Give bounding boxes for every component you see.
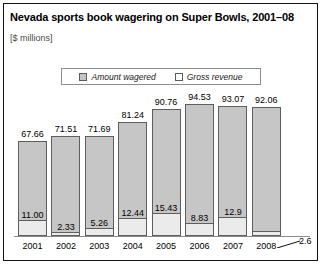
bar-gross-revenue: [86, 228, 113, 235]
callout-leader-line: [277, 234, 300, 242]
bar-gross-revenue: [119, 218, 146, 235]
chart-title: Nevada sports book wagering on Super Bow…: [10, 11, 294, 23]
legend-swatch-icon-amount-wagered: [79, 73, 87, 81]
bar-value-label-gross-revenue: 12.44: [118, 208, 147, 218]
chart-figure: Nevada sports book wagering on Super Bow…: [0, 0, 321, 265]
bar-value-label-amount-wagered: 71.69: [79, 124, 120, 134]
chart-subtitle: [$ millions]: [10, 33, 53, 43]
bar-gross-revenue: [19, 220, 46, 235]
chart-plot-area: 67.6611.0071.512.3371.695.2681.2412.4490…: [14, 96, 308, 236]
bar-gross-revenue: [253, 231, 280, 235]
legend-label-gross-revenue: Gross revenue: [187, 72, 243, 82]
bar-amount-wagered: [252, 107, 281, 236]
bar-value-label-amount-wagered: 92.06: [246, 95, 287, 105]
bar-gross-revenue: [153, 213, 180, 235]
chart-legend: Amount wagered Gross revenue: [61, 68, 261, 85]
legend-item-gross-revenue: Gross revenue: [175, 72, 243, 82]
bar-value-label-gross-revenue: 12.9: [218, 207, 247, 217]
bar-amount-wagered: [152, 109, 181, 236]
legend-label-amount-wagered: Amount wagered: [91, 72, 155, 82]
bar-gross-revenue: [186, 223, 213, 235]
x-axis-line: [14, 236, 310, 237]
bar-value-label-gross-revenue: 11.00: [18, 210, 47, 220]
legend-swatch-icon-gross-revenue: [175, 73, 183, 81]
bar-value-label-gross-revenue: 8.83: [185, 213, 214, 223]
bar-gross-revenue: [219, 217, 246, 235]
bar-amount-wagered: [18, 141, 47, 236]
bar-gross-revenue: [52, 232, 79, 235]
bar-value-label-gross-revenue: 2.33: [51, 222, 80, 232]
bar-value-label-amount-wagered: 81.24: [112, 110, 153, 120]
bar-value-label-gross-revenue: 15.43: [152, 203, 181, 213]
callout-value-label: 2.6: [299, 236, 312, 246]
bar-value-label-gross-revenue: 5.26: [85, 218, 114, 228]
legend-item-amount-wagered: Amount wagered: [79, 72, 155, 82]
bar-amount-wagered: [118, 122, 147, 236]
